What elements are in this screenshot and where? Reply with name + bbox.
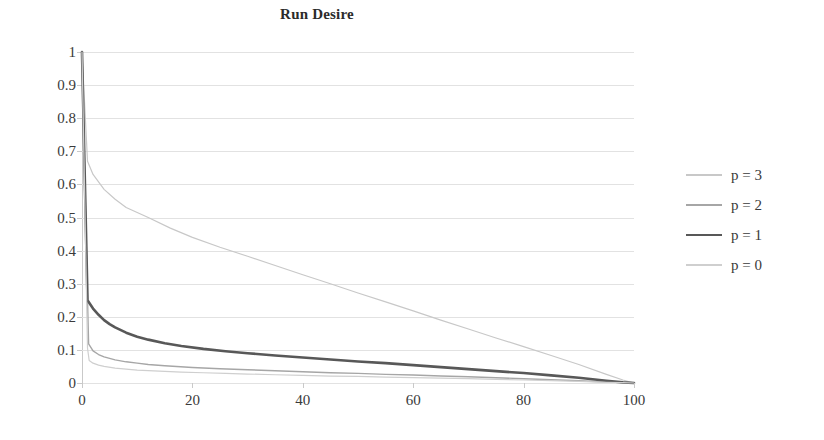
y-axis-tick-label: 0.7: [57, 143, 76, 160]
legend-item-label: p = 1: [731, 227, 762, 244]
legend-item-label: p = 2: [731, 197, 762, 214]
y-axis-tick-label: 0.9: [57, 77, 76, 94]
x-axis-tick-mark: [413, 383, 414, 388]
plot-area: [82, 52, 634, 383]
y-axis-tick-label: 0.1: [57, 341, 76, 358]
x-axis-tick-label: 0: [78, 392, 86, 409]
y-axis-tick-label: 0.5: [57, 209, 76, 226]
gridline: [82, 383, 634, 384]
legend-item[interactable]: p = 1: [686, 220, 816, 250]
x-axis-tick-label: 80: [516, 392, 531, 409]
y-axis-tick-label: 1: [69, 44, 77, 61]
legend-item-label: p = 3: [731, 167, 762, 184]
x-axis-tick-label: 60: [406, 392, 421, 409]
y-axis-tick-label: 0: [69, 375, 77, 392]
series-line: [82, 52, 634, 383]
y-axis-tick-label: 0.8: [57, 110, 76, 127]
chart-container: Run Desire 00.10.20.30.40.50.60.70.80.91…: [0, 0, 824, 440]
legend-item[interactable]: p = 3: [686, 160, 816, 190]
legend-line-swatch: [686, 234, 722, 237]
x-axis-tick-label: 100: [623, 392, 646, 409]
y-axis-tick-label: 0.3: [57, 275, 76, 292]
chart-legend: p = 3p = 2p = 1p = 0: [686, 160, 816, 280]
x-axis-tick-mark: [634, 383, 635, 388]
legend-line-swatch: [686, 174, 722, 175]
x-axis-tick-mark: [82, 383, 83, 388]
legend-item[interactable]: p = 0: [686, 250, 816, 280]
series-lines: [82, 52, 634, 383]
legend-item-label: p = 0: [731, 257, 762, 274]
y-axis-tick-label: 0.6: [57, 176, 76, 193]
x-axis-tick-mark: [192, 383, 193, 388]
legend-line-swatch: [686, 204, 722, 205]
legend-line-swatch: [686, 264, 722, 265]
x-axis-tick-label: 20: [185, 392, 200, 409]
x-axis-tick-mark: [303, 383, 304, 388]
legend-item[interactable]: p = 2: [686, 190, 816, 220]
chart-title: Run Desire: [0, 6, 634, 23]
y-axis-tick-label: 0.4: [57, 242, 76, 259]
series-line: [82, 52, 634, 383]
x-axis-tick-label: 40: [295, 392, 310, 409]
x-axis-tick-mark: [524, 383, 525, 388]
y-axis-tick-label: 0.2: [57, 308, 76, 325]
series-line: [82, 52, 634, 383]
series-line: [82, 52, 634, 383]
